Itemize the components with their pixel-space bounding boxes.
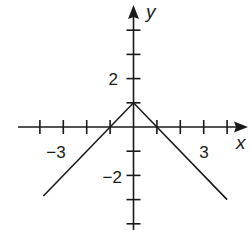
x-tick-label-neg3: −3 xyxy=(46,143,65,162)
x-axis-arrow-icon xyxy=(234,122,248,133)
axes xyxy=(18,14,240,230)
y-tick-label-2: 2 xyxy=(109,70,118,89)
coordinate-plane: x y −3 3 2 −2 xyxy=(0,0,250,230)
y-tick-label-neg2: −2 xyxy=(103,168,122,187)
x-axis-label: x xyxy=(235,132,247,153)
y-axis-label: y xyxy=(144,1,157,22)
x-tick-label-3: 3 xyxy=(199,143,208,162)
y-axis-arrow-icon xyxy=(128,5,139,19)
